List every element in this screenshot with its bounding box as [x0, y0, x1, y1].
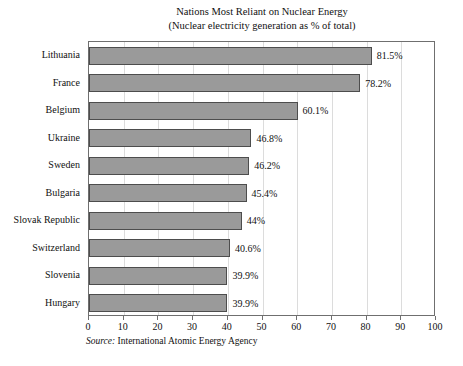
- bar-value-label: 46.8%: [256, 133, 282, 144]
- category-label: Slovenia: [0, 261, 84, 289]
- category-label: Switzerland: [0, 234, 84, 262]
- axis-tick-mark: [88, 316, 89, 320]
- chart-title: Nations Most Reliant on Nuclear Energy: [88, 5, 436, 19]
- bar-value-label: 46.2%: [254, 160, 280, 171]
- plot-area: 81.5%78.2%60.1%46.8%46.2%45.4%44%40.6%39…: [88, 41, 435, 316]
- source-note: Source: International Atomic Energy Agen…: [86, 336, 258, 346]
- category-label: Belgium: [0, 96, 84, 124]
- bar-row: 60.1%: [89, 97, 434, 125]
- axis-tick-mark: [157, 316, 158, 320]
- bar-value-label: 60.1%: [303, 105, 329, 116]
- chart-title-block: Nations Most Reliant on Nuclear Energy (…: [88, 5, 436, 33]
- chart-subtitle: (Nuclear electricity generation as % of …: [88, 19, 436, 33]
- axis-tick-label: 100: [428, 321, 443, 332]
- axis-tick-mark: [296, 316, 297, 320]
- bar-row: 39.9%: [89, 290, 434, 318]
- category-label: Sweden: [0, 151, 84, 179]
- bar-value-label: 40.6%: [235, 243, 261, 254]
- axis-tick-mark: [227, 316, 228, 320]
- axis-tick-mark: [366, 316, 367, 320]
- category-label: Ukraine: [0, 124, 84, 152]
- bar: [89, 102, 298, 120]
- category-label: France: [0, 69, 84, 97]
- axis-tick-label: 10: [118, 321, 128, 332]
- axis-tick-label: 40: [222, 321, 232, 332]
- bar-row: 78.2%: [89, 70, 434, 98]
- category-label: Slovak Republic: [0, 206, 84, 234]
- bar-row: 39.9%: [89, 262, 434, 290]
- bar: [89, 47, 372, 65]
- source-text: International Atomic Energy Agency: [118, 336, 258, 346]
- axis-tick-label: 60: [291, 321, 301, 332]
- bar: [89, 74, 360, 92]
- axis-tick-label: 80: [361, 321, 371, 332]
- bar-value-label: 44%: [247, 215, 265, 226]
- axis-tick-label: 50: [257, 321, 267, 332]
- value-axis: 0102030405060708090100: [88, 316, 435, 338]
- axis-tick-label: 20: [152, 321, 162, 332]
- category-label: Bulgaria: [0, 179, 84, 207]
- category-label: Lithuania: [0, 41, 84, 69]
- axis-tick-mark: [331, 316, 332, 320]
- bar: [89, 184, 247, 202]
- axis-tick-label: 70: [326, 321, 336, 332]
- bar-value-label: 78.2%: [365, 78, 391, 89]
- bar: [89, 294, 227, 312]
- axis-tick-mark: [400, 316, 401, 320]
- bar-chart-figure: Nations Most Reliant on Nuclear Energy (…: [0, 0, 463, 366]
- bar-row: 46.2%: [89, 152, 434, 180]
- axis-tick-label: 30: [187, 321, 197, 332]
- bar-row: 45.4%: [89, 180, 434, 208]
- bar: [89, 239, 230, 257]
- axis-tick-mark: [435, 316, 436, 320]
- bar-value-label: 39.9%: [232, 270, 258, 281]
- bar-row: 40.6%: [89, 235, 434, 263]
- bar-row: 44%: [89, 207, 434, 235]
- axis-tick-mark: [262, 316, 263, 320]
- axis-tick-mark: [192, 316, 193, 320]
- bar-row: 81.5%: [89, 42, 434, 70]
- axis-tick-label: 90: [395, 321, 405, 332]
- bar-row: 46.8%: [89, 125, 434, 153]
- category-axis-labels: LithuaniaFranceBelgiumUkraineSwedenBulga…: [0, 41, 84, 316]
- axis-tick-mark: [123, 316, 124, 320]
- bar: [89, 267, 227, 285]
- axis-tick-label: 0: [86, 321, 91, 332]
- bar-value-label: 39.9%: [232, 298, 258, 309]
- bar: [89, 212, 242, 230]
- bar-value-label: 45.4%: [252, 188, 278, 199]
- bars-container: 81.5%78.2%60.1%46.8%46.2%45.4%44%40.6%39…: [89, 42, 434, 315]
- bar: [89, 129, 251, 147]
- source-label: Source:: [86, 336, 115, 346]
- category-label: Hungary: [0, 289, 84, 317]
- bar-value-label: 81.5%: [377, 50, 403, 61]
- bar: [89, 157, 249, 175]
